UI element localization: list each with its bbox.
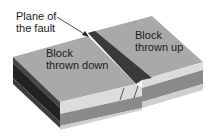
block-thrown-down-line-2: thrown down <box>46 59 108 71</box>
arrowhead-icon <box>82 31 89 37</box>
block-thrown-down-line-1: Block <box>46 47 108 59</box>
block-thrown-up-line-1: Block <box>135 29 183 41</box>
block-thrown-up-label: Block thrown up <box>135 29 183 53</box>
fault-plane-arrow <box>57 17 89 37</box>
block-thrown-up-line-2: thrown up <box>135 41 183 53</box>
plane-of-fault-line-1: Plane of <box>16 10 56 22</box>
block-thrown-down-label: Block thrown down <box>46 47 108 71</box>
plane-of-fault-line-2: the fault <box>16 22 56 34</box>
plane-of-fault-label: Plane of the fault <box>16 10 56 34</box>
